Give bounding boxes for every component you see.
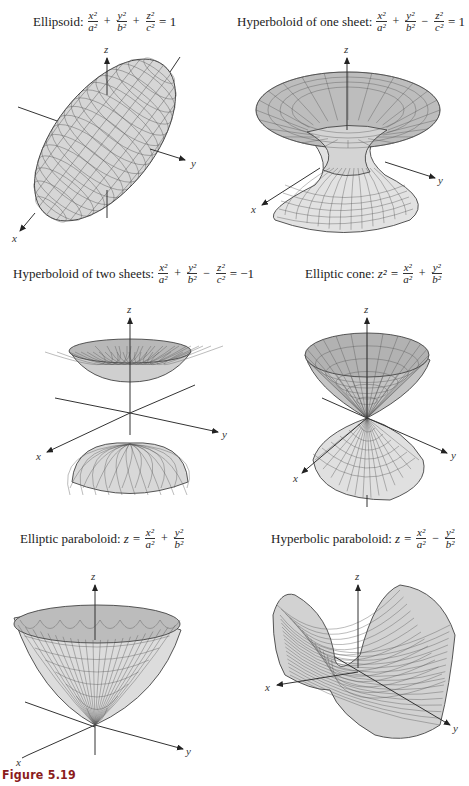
ellipsoid-x-axis <box>20 213 35 231</box>
equation-rhs: = −1 <box>230 266 254 282</box>
ellipsoid-z-label: z <box>103 43 109 55</box>
hp-x-label: x <box>264 681 270 693</box>
figure-caption: Figure 5.19 <box>2 767 76 782</box>
hyperboloid-one-sheet-plot: z y x <box>235 50 469 250</box>
equation-operator: + <box>393 14 400 29</box>
fraction-denominator: a² <box>146 539 155 550</box>
h1-y-axis <box>385 162 435 178</box>
title-elliptic-paraboloid: Elliptic paraboloid:z =x²a²+y²b² <box>20 527 185 550</box>
h1-z-label: z <box>343 43 349 55</box>
elliptic-paraboloid-plot: z y <box>0 575 235 755</box>
equation-operator: − <box>203 266 210 281</box>
ep-x-arrow: x <box>0 740 60 770</box>
equation-fraction: x²a² <box>158 262 168 285</box>
fraction-denominator: b² <box>174 539 183 550</box>
hyperbolic-paraboloid-plot: z y x <box>235 575 469 755</box>
ellipsoid-y-axis-back <box>170 57 180 72</box>
equation-fraction: y²b² <box>445 527 455 550</box>
h2-y-label: y <box>221 428 227 440</box>
equation-operator: − <box>422 14 429 29</box>
equation-fraction: x²a² <box>145 527 155 550</box>
equation-fraction: x²a² <box>416 527 426 550</box>
ellipsoid-y-label: y <box>190 157 196 169</box>
hp-surface <box>273 585 455 738</box>
fraction-denominator: a² <box>403 274 412 285</box>
equation-fraction: y²b² <box>432 262 442 285</box>
title-ellipsoid: Ellipsoid:x²a²+y²b²+z²c²= 1 <box>33 10 176 33</box>
ep-y-axis <box>95 725 183 749</box>
ellipsoid-x-label: x <box>11 232 17 244</box>
cone-z-label: z <box>363 303 369 315</box>
title-elliptic-cone: Elliptic cone:z² =x²a²+y²b² <box>305 262 443 285</box>
equation-label: Elliptic cone: <box>305 266 375 282</box>
fraction-denominator: a² <box>417 539 426 550</box>
hp-z-label: z <box>354 570 360 582</box>
fraction-denominator: c² <box>435 22 443 33</box>
equation-rhs: = 1 <box>159 14 176 30</box>
equation-fraction: x²a² <box>403 262 413 285</box>
equation-rhs: = 1 <box>448 14 465 30</box>
equation-fraction: z²c² <box>216 262 226 285</box>
fraction-denominator: a² <box>88 22 97 33</box>
equation-label: Hyperboloid of two sheets: <box>13 266 154 282</box>
equation-lhs: z² = <box>378 266 399 282</box>
equation-label: Elliptic paraboloid: <box>20 531 121 547</box>
equation-fraction: x²a² <box>376 10 386 33</box>
equation-operator: − <box>432 531 439 546</box>
fraction-denominator: b² <box>446 539 455 550</box>
equation-lhs: z = <box>395 531 412 547</box>
equation-operator: + <box>104 14 111 29</box>
ep-y-label: y <box>185 745 191 757</box>
equation-fraction: y²b² <box>187 262 197 285</box>
title-hyperboloid-two-sheets: Hyperboloid of two sheets:x²a²+y²b²−z²c²… <box>13 262 254 285</box>
fraction-denominator: c² <box>146 22 154 33</box>
equation-fraction: x²a² <box>88 10 98 33</box>
cone-x-label: x <box>292 472 298 484</box>
equation-label: Hyperboloid of one sheet: <box>237 14 372 30</box>
equation-label: Ellipsoid: <box>33 14 84 30</box>
ep-z-label: z <box>90 570 96 582</box>
equation-operator: + <box>419 266 426 281</box>
fraction-denominator: b² <box>117 22 126 33</box>
h2-axis-back <box>55 398 130 413</box>
equation-fraction: z²c² <box>146 10 156 33</box>
h2-axis-back2 <box>130 385 195 413</box>
equation-operator: + <box>174 266 181 281</box>
h2-x-label: x <box>35 450 41 462</box>
equation-fraction: y²b² <box>117 10 127 33</box>
ellipsoid-plot: z y x <box>0 50 235 250</box>
equation-label: Hyperbolic paraboloid: <box>271 531 392 547</box>
h2-y-axis <box>130 413 218 432</box>
equation-lhs: z = <box>124 531 141 547</box>
equation-fraction: z²c² <box>434 10 444 33</box>
hyperboloid-two-sheets-plot: z y x <box>0 310 235 510</box>
hp-y-label: y <box>452 722 458 734</box>
equation-fraction: y²b² <box>405 10 415 33</box>
h1-y-label: y <box>437 174 443 186</box>
equation-fraction: y²b² <box>174 527 184 550</box>
h2-z-label: z <box>126 303 132 315</box>
elliptic-cone-plot: z y x <box>235 310 469 510</box>
h1-x-label: x <box>250 203 256 215</box>
fraction-denominator: c² <box>217 274 225 285</box>
ep-x-axis-tail <box>22 755 28 758</box>
ellipsoid-axis-back <box>18 107 60 122</box>
fraction-denominator: b² <box>188 274 197 285</box>
cone-y-label: y <box>450 449 456 461</box>
fraction-denominator: b² <box>432 274 441 285</box>
title-hyperbolic-paraboloid: Hyperbolic paraboloid:z =x²a²−y²b² <box>271 527 456 550</box>
equation-operator: + <box>133 14 140 29</box>
fraction-denominator: a² <box>159 274 168 285</box>
fraction-denominator: a² <box>377 22 386 33</box>
fraction-denominator: b² <box>406 22 415 33</box>
equation-operator: + <box>161 531 168 546</box>
ep-rim <box>14 605 180 643</box>
title-hyperboloid-one-sheet: Hyperboloid of one sheet:x²a²+y²b²−z²c²=… <box>237 10 465 33</box>
